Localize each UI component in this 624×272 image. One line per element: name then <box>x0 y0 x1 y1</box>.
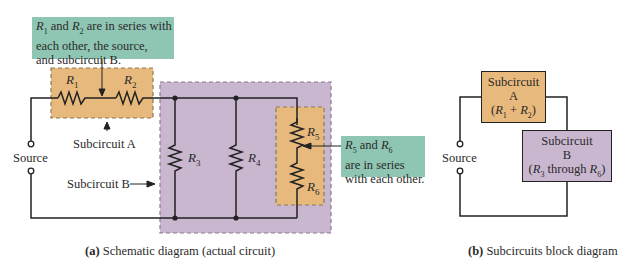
block-a-line-1: Subcircuit <box>482 75 545 89</box>
label-r2: R2 <box>124 72 136 90</box>
caption-a: (a) Schematic diagram (actual circuit) <box>85 244 275 259</box>
callout-line-1: R5 and R6 <box>345 138 421 158</box>
block-wire-right <box>545 97 567 130</box>
block-source-label: Source <box>442 151 477 165</box>
label-r1: R1 <box>66 72 78 90</box>
caption-b: (b) Subcircuits block diagram <box>468 244 618 259</box>
block-a-line-3: (R1 + R2) <box>482 103 545 123</box>
callout-line-1: R1 and R2 are in series with <box>36 19 170 39</box>
arrow-up-icon <box>104 122 110 129</box>
block-source-terminal-bottom <box>457 168 463 174</box>
subcircuit-b-block: Subcircuit B (R3 through R6) <box>522 130 612 182</box>
arrow-right-icon <box>147 181 155 187</box>
block-source-terminal-top <box>457 141 463 147</box>
block-b-line-1: Subcircuit <box>523 134 611 148</box>
label-r5: R5 <box>307 124 319 142</box>
label-r6: R6 <box>307 179 319 197</box>
source-terminal-bottom <box>28 168 34 174</box>
subcircuit-a-block: Subcircuit A (R1 + R2) <box>481 71 546 123</box>
source-label: Source <box>13 151 48 165</box>
node-dot <box>233 95 238 100</box>
callout-line-3: with each other. <box>345 172 421 186</box>
node-dot <box>172 215 177 220</box>
source-terminal-top <box>28 141 34 147</box>
label-r4: R4 <box>248 150 260 168</box>
block-b-line-2: B <box>523 148 611 162</box>
series-note-r1-r2: R1 and R2 are in series with each other,… <box>32 17 174 59</box>
block-wire-left <box>460 97 481 141</box>
series-note-r5-r6: R5 and R6 are in series with each other. <box>341 136 425 177</box>
callout-line-2: each other, the source, <box>36 39 170 53</box>
subcircuit-b-label: Subcircuit B <box>67 177 130 191</box>
callout-line-2: are in series <box>345 158 421 172</box>
block-a-line-2: A <box>482 89 545 103</box>
block-b-line-3: (R3 through R6) <box>523 162 611 182</box>
subcircuit-a-label: Subcircuit A <box>73 137 136 151</box>
node-dot <box>172 95 177 100</box>
node-dot <box>233 215 238 220</box>
callout-line-3: and subcircuit B. <box>36 53 170 67</box>
label-r3: R3 <box>188 150 200 168</box>
